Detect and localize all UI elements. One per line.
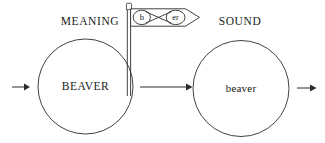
transfer-arrow	[140, 84, 193, 91]
sound-heading: SOUND	[219, 15, 262, 27]
meaning-sound-diagram: MEANING SOUND BEAVER beaver b er	[0, 0, 325, 143]
meaning-heading: MEANING	[61, 15, 120, 27]
sound-circle-label: beaver	[226, 82, 257, 94]
diagram-canvas: MEANING SOUND BEAVER beaver b er	[0, 0, 325, 143]
input-arrow	[12, 84, 30, 91]
meaning-circle-label: BEAVER	[62, 80, 110, 92]
output-arrow	[297, 85, 317, 92]
banner-right-oval-label: er	[172, 12, 179, 22]
banner-left-oval-label: b	[140, 12, 144, 22]
